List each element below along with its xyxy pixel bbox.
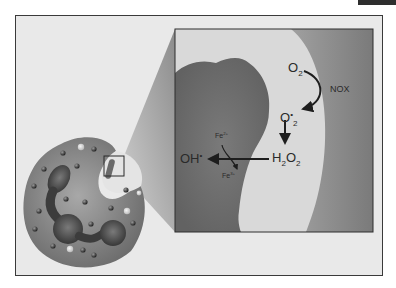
inset-magnified-view [175, 29, 373, 232]
label-fe2: Fe2+ [215, 132, 228, 139]
neutrophil-cell [23, 137, 144, 267]
diagram-canvas [16, 16, 382, 275]
nucleus-lobe [100, 220, 126, 246]
label-o2: O2 [288, 61, 303, 74]
label-h2o2: H2O2 [272, 151, 300, 164]
label-fe3: Fe3+ [222, 172, 235, 179]
corner-tab [358, 0, 396, 5]
label-superoxide: O•2 [280, 111, 297, 124]
label-nox: NOX [330, 85, 350, 94]
label-hydroxyl-radical: OH• [180, 152, 202, 165]
figure-frame: O2 NOX O•2 H2O2 OH• Fe2+ Fe3+ [15, 15, 383, 276]
